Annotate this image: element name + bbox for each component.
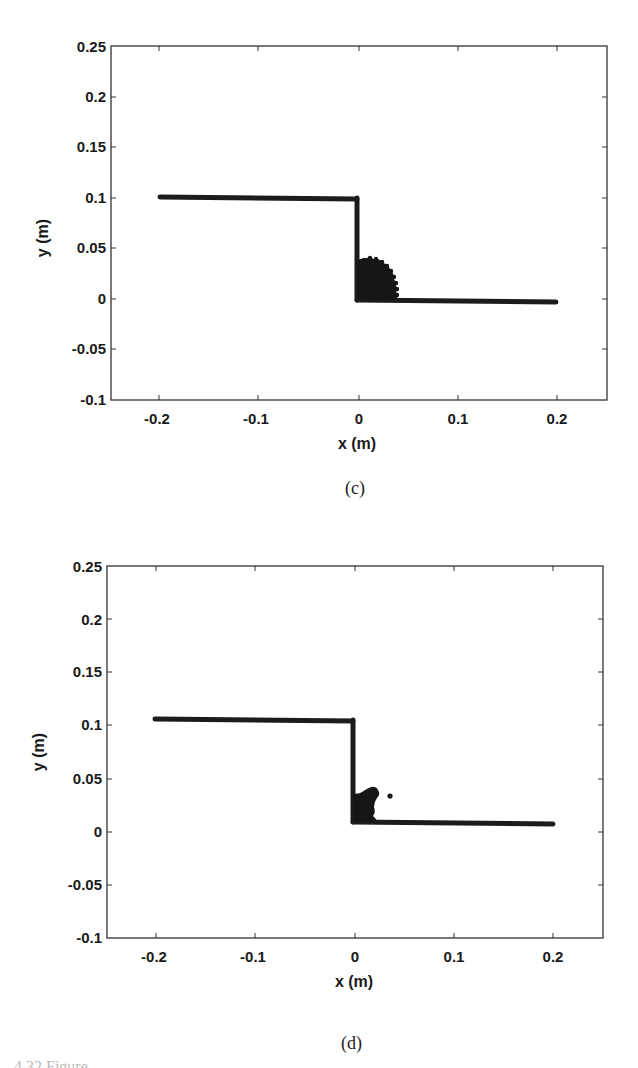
y-tick-label: -0.05 xyxy=(72,340,106,357)
y-tick-label: -0.1 xyxy=(80,391,106,408)
figure-caption-cutoff: 4.32 Figure ... xyxy=(14,1058,614,1068)
x-tick-label: 0 xyxy=(351,948,359,965)
fluid-particle-cluster xyxy=(353,787,379,822)
x-tick-label: 0.1 xyxy=(444,948,465,965)
y-tick-label: 0 xyxy=(98,290,106,307)
y-tick-label: 0.05 xyxy=(77,239,106,256)
y-tick-label: 0.2 xyxy=(85,88,106,105)
plot-c: 0.25 0.2 0.15 0.1 0.05 0 -0.05 -0.1 -0.2… xyxy=(0,0,638,520)
y-tick-label: 0.25 xyxy=(77,38,106,55)
panel-caption: (c) xyxy=(345,478,365,499)
x-tick-label: -0.1 xyxy=(243,410,269,427)
y-tick-labels: 0.25 0.2 0.15 0.1 0.05 0 -0.05 -0.1 xyxy=(68,558,102,946)
x-tick-label: 0 xyxy=(355,410,363,427)
plot-d: 0.25 0.2 0.15 0.1 0.05 0 -0.05 -0.1 -0.2… xyxy=(0,520,638,1060)
figure-panel-c: 0.25 0.2 0.15 0.1 0.05 0 -0.05 -0.1 -0.2… xyxy=(0,0,638,520)
y-tick-label: 0.15 xyxy=(73,663,102,680)
y-tick-label: 0.1 xyxy=(81,716,102,733)
y-tick-label: -0.1 xyxy=(76,929,102,946)
splash-droplet xyxy=(387,793,392,798)
x-axis-label: x (m) xyxy=(338,435,376,452)
x-tick-label: -0.2 xyxy=(144,410,170,427)
x-tick-label: 0.2 xyxy=(547,410,568,427)
y-tick-label: 0.05 xyxy=(73,770,102,787)
x-tick-label: -0.2 xyxy=(141,948,167,965)
x-tick-labels: -0.2 -0.1 0 0.1 0.2 xyxy=(144,410,567,427)
x-tick-label: 0.1 xyxy=(448,410,469,427)
panel-caption: (d) xyxy=(341,1033,362,1054)
fluid-particle-cluster xyxy=(357,258,397,301)
figure-panel-d: 0.25 0.2 0.15 0.1 0.05 0 -0.05 -0.1 -0.2… xyxy=(0,520,638,1060)
y-tick-labels: 0.25 0.2 0.15 0.1 0.05 0 -0.05 -0.1 xyxy=(72,38,106,408)
y-axis-label: y (m) xyxy=(30,733,47,771)
y-tick-label: 0.1 xyxy=(85,189,106,206)
y-tick-label: 0 xyxy=(94,823,102,840)
x-tick-label: 0.2 xyxy=(543,948,564,965)
y-tick-label: 0.25 xyxy=(73,558,102,575)
y-tick-label: -0.05 xyxy=(68,876,102,893)
y-axis-label: y (m) xyxy=(34,219,51,257)
x-axis-label: x (m) xyxy=(335,973,373,990)
x-tick-labels: -0.2 -0.1 0 0.1 0.2 xyxy=(141,948,563,965)
y-tick-label: 0.2 xyxy=(81,611,102,628)
x-tick-label: -0.1 xyxy=(240,948,266,965)
y-tick-label: 0.15 xyxy=(77,138,106,155)
